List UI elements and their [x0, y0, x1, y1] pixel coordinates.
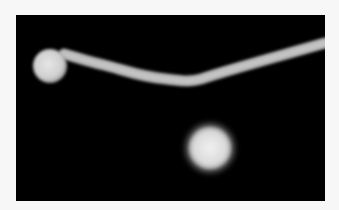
free-cell — [189, 127, 231, 169]
micrograph-svg — [16, 15, 325, 201]
cell-with-filament — [33, 49, 67, 83]
micrograph-image — [16, 15, 325, 201]
